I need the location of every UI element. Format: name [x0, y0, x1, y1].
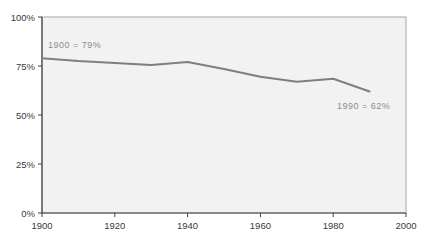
x-axis-tick-label: 1900	[31, 220, 52, 231]
y-axis-tick-label: 0%	[21, 208, 35, 219]
y-axis-tick-label: 100%	[11, 12, 36, 23]
data-label-annotation: 1900 = 79%	[48, 40, 101, 50]
data-label-annotation: 1990 = 62%	[337, 101, 390, 111]
x-axis-tick-label: 1920	[104, 220, 125, 231]
x-axis-tick-label: 2000	[395, 220, 416, 231]
y-axis-tick-label: 50%	[16, 110, 36, 121]
x-axis-tick-label: 1960	[250, 220, 271, 231]
x-axis-tick-label: 1980	[323, 220, 344, 231]
y-axis-tick-label: 25%	[16, 159, 36, 170]
line-chart: 0%25%50%75%100%1900192019401960198020001…	[0, 0, 426, 248]
x-axis-tick-label: 1940	[177, 220, 198, 231]
y-axis-tick-label: 75%	[16, 61, 36, 72]
chart-canvas: 0%25%50%75%100%1900192019401960198020001…	[0, 0, 426, 248]
